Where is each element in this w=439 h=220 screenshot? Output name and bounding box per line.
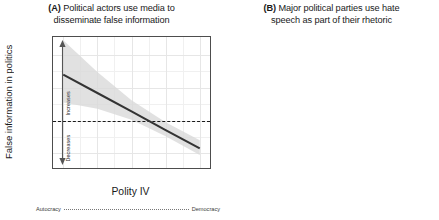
y-axis-tick-label: 2 <box>52 50 53 60</box>
panel-a-y-axis-title: False information in politics <box>3 34 14 170</box>
panel-a-decreases-label: Decreases <box>65 128 71 161</box>
x-axis-tick-label: -5 <box>93 168 101 169</box>
x-axis-tick-mark <box>200 168 201 169</box>
panel-b-title-line2: speech as part of their rhetoric <box>271 15 392 25</box>
panel-a-title: (A) Political actors use media to dissem… <box>8 3 215 26</box>
y-axis-tick-label: 0 <box>52 116 53 126</box>
panel-a-direction-arrow: Increases Decreases <box>58 40 74 165</box>
panel-b: (B) Major political parties use hate spe… <box>220 0 439 220</box>
y-axis-tick-label: -1 <box>52 148 53 158</box>
panel-b-title: (B) Major political parties use hate spe… <box>228 3 435 26</box>
x-axis-tick-label: 0 <box>129 168 134 169</box>
panel-a-autocracy-label: Autocracy <box>36 206 61 212</box>
x-axis-tick-label: -10 <box>57 168 70 169</box>
x-axis-tick-mark <box>63 168 64 169</box>
panel-a-democracy-label: Democracy <box>192 206 220 212</box>
panel-b-title-line1: Major political parties use hate <box>279 3 400 13</box>
panel-a-x-axis-title: Polity IV <box>52 186 209 197</box>
panel-a: (A) Political actors use media to dissem… <box>0 0 219 220</box>
regression-line-shape <box>53 37 210 168</box>
x-axis-tick-mark <box>97 168 98 169</box>
x-axis-tick-label: 10 <box>195 168 205 169</box>
panel-a-increases-label: Increases <box>65 46 71 116</box>
x-axis-tick-mark <box>131 168 132 169</box>
panel-a-tag: (A) <box>48 3 60 13</box>
y-axis-tick-label: 1 <box>52 83 53 93</box>
panel-a-title-line2: disseminate false information <box>53 15 169 25</box>
panel-a-title-line1: Political actors use media to <box>63 3 175 13</box>
panel-b-tag: (B) <box>264 3 276 13</box>
panel-a-plot-area: Increases Decreases 210-1 -10-50510 <box>52 36 211 169</box>
spectrum-dotted-line <box>64 209 189 210</box>
x-axis-tick-label: 5 <box>163 168 168 169</box>
x-axis-tick-mark <box>166 168 167 169</box>
figure-panel-group: (A) Political actors use media to dissem… <box>0 0 439 220</box>
panel-a-regime-spectrum: Autocracy Democracy <box>36 203 220 215</box>
panel-a-fit-line <box>53 37 210 168</box>
